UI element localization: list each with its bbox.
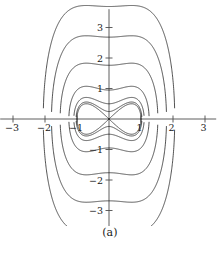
axes-group [0,9,216,226]
y-tick-label-1: 1 [97,83,103,94]
y-tick-label-2: 2 [97,53,103,64]
contour-plot-figure: −3−2−1123−3−2−1123 (a) [0,0,220,254]
y-tick-label-3: 3 [97,22,103,33]
x-tick-label--2: −2 [37,122,51,133]
y-tick-label--3: −3 [89,205,103,216]
contour-plot-canvas: −3−2−1123−3−2−1123 [0,0,220,226]
x-tick-label-1: 1 [136,122,142,133]
figure-caption: (a) [0,226,220,239]
x-tick-label-2: 2 [168,122,174,133]
y-tick-label--1: −1 [89,144,103,155]
x-tick-label--3: −3 [5,122,19,133]
x-tick-label-3: 3 [200,122,206,133]
y-tick-label--2: −2 [89,175,103,186]
x-tick-label--1: −1 [69,122,83,133]
